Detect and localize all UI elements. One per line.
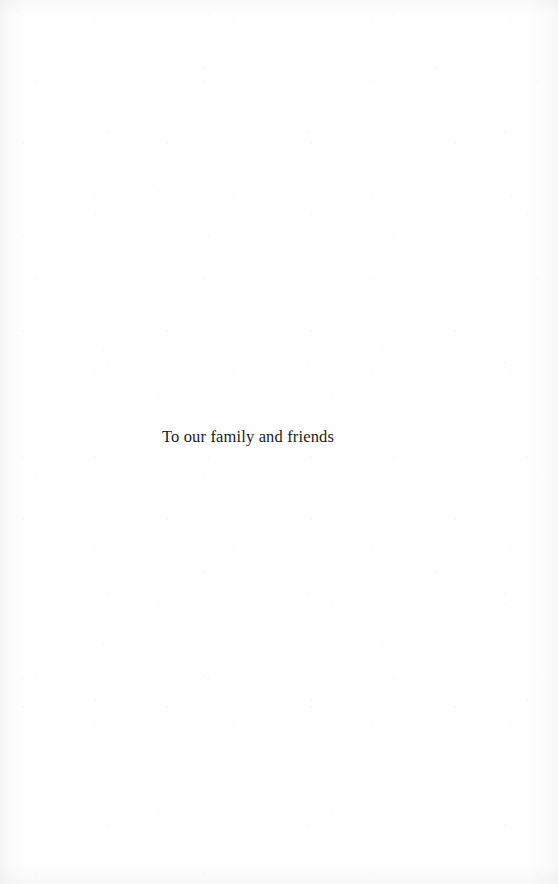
dedication-text: To our family and friends — [0, 426, 496, 448]
dedication-block: To our family and friends — [0, 426, 496, 448]
scanned-page: To our family and friends — [0, 0, 558, 884]
